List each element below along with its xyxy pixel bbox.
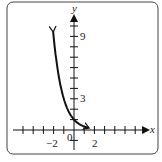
- y-tick-label-9: 9: [80, 30, 86, 42]
- x-tick-label-neg2: −2: [46, 137, 58, 149]
- exponential-graph: x y −2 2 0 3 9: [0, 0, 162, 162]
- y-tick-label-3: 3: [80, 92, 86, 104]
- x-tick-label-2: 2: [92, 137, 98, 149]
- x-axis-label: x: [149, 123, 155, 135]
- origin-label: 0: [67, 131, 73, 143]
- function-curve: [53, 31, 88, 128]
- y-axis-label: y: [71, 2, 77, 14]
